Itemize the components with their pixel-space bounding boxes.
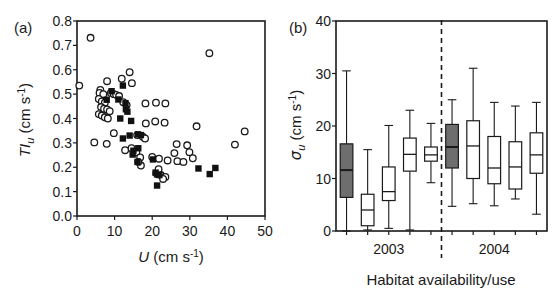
boxplot-box [340,71,353,231]
box-iqr [467,121,480,179]
scatter-point-open [106,108,113,115]
panel-a-svg: (a) 0.00.10.20.30.40.50.60.70.8 01020304… [0,0,280,300]
scatter-point-open [129,80,136,87]
panel-a-x-axis-label: U (cm s-1) [138,248,204,265]
scatter-point-filled [138,132,144,138]
panel-a-scatter: (a) 0.00.10.20.30.40.50.60.70.8 01020304… [0,0,280,300]
scatter-point-filled [207,171,213,177]
box-iqr [382,167,395,201]
boxplot-box [361,150,374,230]
panel-a-x-tick-labels: 01020304050 [73,223,273,239]
panel-a-y-tick-label: 0.6 [53,62,73,78]
panel-b-svg: (b) 010203040 20032004 σu (cm s-1) Habit… [279,0,559,300]
panel-b-ylabel-unit: (cm s [287,104,304,141]
panel-a-ylabel-close: ) [16,83,33,88]
scatter-point-open [184,142,191,149]
panel-a-x-tick-label: 30 [182,223,198,239]
scatter-point-open [118,75,125,82]
scatter-point-filled [117,115,123,121]
scatter-point-open [180,159,187,166]
boxplot-box [488,102,501,205]
panel-a-data-points [76,35,248,189]
scatter-point-open [161,119,168,126]
panel-b-y-tick-label: 10 [315,171,331,187]
panel-a-y-tick-labels: 0.00.10.20.30.40.50.60.70.8 [53,13,73,224]
scatter-point-filled [154,182,160,188]
scatter-point-open [206,50,213,57]
panel-a-y-tick-label: 0.5 [53,86,73,102]
scatter-point-open [162,100,169,107]
scatter-point-open [156,155,163,162]
scatter-point-open [152,118,159,125]
panel-a-x-tick-label: 50 [257,223,273,239]
panel-b-y-axis-label: σu (cm s-1) [287,90,307,160]
panel-a-tick-marks [73,21,265,220]
panel-a-ylabel-main: TI [16,144,33,157]
scatter-point-filled [134,159,140,165]
svg-text:σu (cm s-1): σu (cm s-1) [287,90,307,160]
panel-a-y-tick-label: 0.7 [53,37,73,53]
scatter-point-filled [212,165,218,171]
scatter-point-filled [156,172,162,178]
scatter-point-filled [124,108,130,114]
scatter-point-open [105,115,112,122]
scatter-point-filled [122,100,128,106]
panel-a-x-tick-label: 40 [220,223,236,239]
scatter-point-filled [108,88,114,94]
panel-a-xlabel-unit: (cm s [153,248,190,265]
scatter-point-open [173,141,180,148]
panel-a-xlabel-main: U [138,248,149,265]
boxplot-box [425,123,438,182]
panel-b-ylabel-main: σ [287,150,305,160]
scatter-point-open [126,69,133,76]
scatter-point-open [164,157,171,164]
panel-b-y-tick-labels: 010203040 [315,13,331,239]
panel-a-y-axis-label: TIu (cm s-1) [16,83,36,157]
panel-a-y-tick-label: 0.1 [53,184,73,200]
scatter-point-open [103,141,110,148]
panel-b-boxplot: (b) 010203040 20032004 σu (cm s-1) Habit… [279,0,559,300]
boxplot-box [404,110,417,230]
scatter-point-filled [195,165,201,171]
panel-a-x-tick-label: 10 [107,223,123,239]
boxplot-box [509,106,522,199]
box-iqr [530,133,543,173]
panel-b-y-tick-label: 40 [315,13,331,29]
panel-a-y-tick-label: 0.8 [53,13,73,29]
boxplot-box [446,100,459,207]
scatter-point-open [91,139,98,146]
box-iqr [425,147,438,161]
scatter-point-filled [150,156,156,162]
scatter-point-open [190,155,197,162]
panel-b-y-tick-label: 0 [323,223,331,239]
panel-b-y-tick-label: 30 [315,66,331,82]
panel-a-x-tick-label: 0 [73,223,81,239]
scatter-point-open [111,130,118,137]
scatter-point-open [241,128,248,135]
panel-b-tag: (b) [289,19,307,36]
panel-b-y-tick-label: 20 [315,118,331,134]
panel-b-group-label: 2003 [373,241,404,257]
scatter-point-filled [126,132,132,138]
panel-b-group-label: 2004 [479,241,510,257]
boxplot-box [467,68,480,203]
boxplot-box [530,102,543,214]
scatter-point-open [104,78,111,85]
panel-a-ylabel-unit: (cm s [16,97,33,134]
scatter-point-open [232,141,239,148]
panel-b-x-axis-label: Habitat availability/use [366,271,515,288]
scatter-point-open [153,99,160,106]
scatter-point-open [142,100,149,107]
scatter-point-filled [129,151,135,157]
panel-a-tag: (a) [14,19,32,36]
scatter-point-open [76,82,83,89]
scatter-point-filled [120,135,126,141]
box-iqr [509,142,522,189]
boxplot-box [382,125,395,228]
panel-a-x-tick-label: 20 [144,223,160,239]
scatter-point-filled [120,82,126,88]
scatter-point-open [193,123,200,130]
scatter-point-filled [128,118,134,124]
scatter-point-open [171,150,178,157]
scatter-point-filled [104,97,110,103]
